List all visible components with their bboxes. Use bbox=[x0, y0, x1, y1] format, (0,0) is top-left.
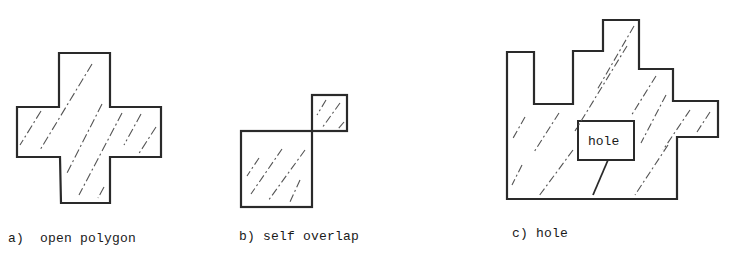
self-overlap-shape bbox=[241, 95, 347, 207]
caption-open-polygon: a) open polygon bbox=[8, 231, 136, 246]
caption-self-overlap: b) self overlap bbox=[239, 229, 359, 244]
hatch-lines bbox=[512, 26, 710, 196]
open-polygon-shape bbox=[17, 53, 161, 203]
hole-label: hole bbox=[588, 134, 619, 149]
hatch-lines bbox=[247, 100, 344, 202]
polygon-with-hole-shape bbox=[507, 20, 718, 199]
caption-hole: c) hole bbox=[512, 226, 568, 241]
hole-leader-line bbox=[593, 160, 608, 195]
hatch-lines bbox=[20, 64, 156, 198]
